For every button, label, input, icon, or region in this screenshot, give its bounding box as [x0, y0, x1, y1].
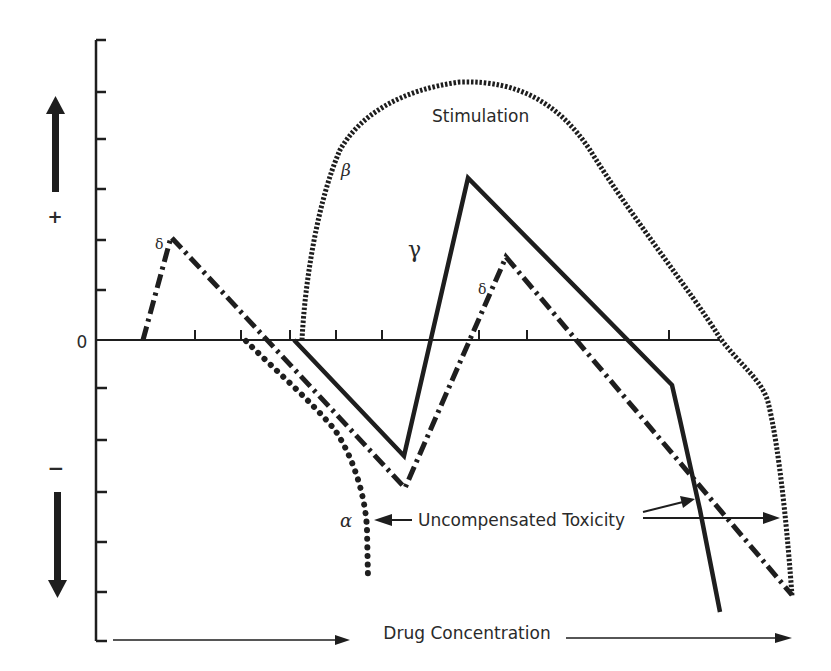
x-axis-arrow-left-segment — [113, 635, 350, 645]
alpha-label: α — [340, 510, 352, 531]
stimulation-label: Stimulation — [432, 106, 529, 126]
alpha-curve — [246, 341, 368, 578]
x-axis-arrow-right-segment — [566, 633, 792, 643]
negative-direction-arrow-icon — [48, 492, 67, 598]
drug-response-diagram: 0 + − Drug Concentration β γ δ δ α Stimu… — [0, 0, 831, 671]
gamma-label: γ — [408, 237, 421, 262]
delta-label-1: δ — [155, 236, 163, 252]
negative-sign: − — [48, 456, 65, 480]
positive-direction-arrow-icon — [46, 96, 65, 192]
delta-label-2: δ — [478, 281, 486, 297]
y-zero-label: 0 — [77, 332, 88, 352]
gamma-curve — [294, 178, 720, 612]
toxicity-label: Uncompensated Toxicity — [418, 510, 625, 530]
positive-sign: + — [47, 206, 62, 227]
toxicity-left-arrow-icon — [374, 514, 412, 526]
beta-label: β — [340, 160, 351, 180]
delta-curve — [143, 237, 792, 595]
x-axis-label: Drug Concentration — [383, 623, 550, 643]
